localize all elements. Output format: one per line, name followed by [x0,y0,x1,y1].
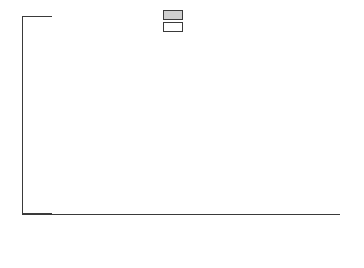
plot-area [22,16,340,214]
x-axis-baseline [22,214,340,215]
category-labels [52,218,340,268]
bars-container [52,16,340,214]
chart-root [0,0,364,268]
y-axis [22,16,52,214]
